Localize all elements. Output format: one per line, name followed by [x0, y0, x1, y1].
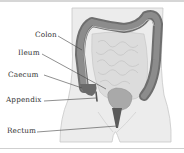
label-colon: Colon: [35, 30, 57, 39]
label-rectum: Rectum: [7, 126, 36, 135]
appendix: [96, 92, 97, 101]
label-caecum: Caecum: [8, 70, 39, 79]
label-appendix: Appendix: [6, 95, 42, 104]
label-ileum: Ileum: [18, 48, 40, 57]
bottom-divider: [0, 148, 184, 149]
